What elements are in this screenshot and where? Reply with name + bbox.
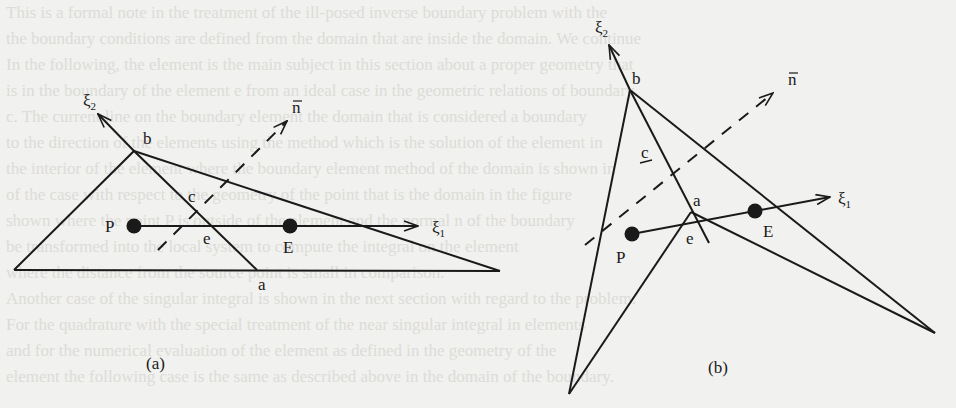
caption-a: (a) — [146, 354, 165, 373]
panel-b: ξ2 b n c a e P E ξ1 (b) — [569, 18, 935, 394]
xi2-axis-arrow — [609, 45, 630, 90]
edge-b-a — [630, 90, 709, 243]
caption-b: (b) — [708, 358, 728, 377]
label-e: e — [203, 229, 211, 248]
point-E — [283, 219, 298, 234]
label-e: e — [686, 229, 694, 248]
label-E: E — [763, 222, 773, 241]
xi2-axis-arrow — [98, 114, 134, 151]
label-b: b — [143, 129, 152, 148]
normal-dashed-arrow — [158, 121, 287, 250]
label-c: c — [641, 143, 649, 162]
edge-b-right — [134, 151, 500, 271]
panel-a: ξ2 b n c e a P E ξ1 (a) — [14, 91, 500, 373]
label-a: a — [258, 275, 266, 294]
figure-canvas: ξ2 b n c e a P E ξ1 (a) ξ2 b n — [0, 0, 956, 408]
label-b: b — [632, 69, 641, 88]
label-xi2: ξ2 — [595, 18, 608, 39]
label-P: P — [105, 217, 114, 236]
label-c: c — [188, 187, 196, 206]
label-xi1: ξ1 — [838, 189, 851, 210]
element-triangle-left — [14, 151, 257, 270]
base-line — [14, 270, 500, 271]
xi1-axis-arrow — [632, 197, 830, 234]
point-E — [748, 204, 763, 219]
label-a: a — [693, 191, 701, 210]
point-P — [625, 227, 640, 242]
label-xi1: ξ1 — [432, 218, 445, 239]
label-xi2: ξ2 — [83, 91, 96, 112]
edge-a-right — [691, 212, 935, 333]
point-P — [127, 219, 142, 234]
label-E: E — [283, 238, 293, 257]
edge-b-right — [630, 90, 935, 333]
label-P: P — [616, 248, 625, 267]
